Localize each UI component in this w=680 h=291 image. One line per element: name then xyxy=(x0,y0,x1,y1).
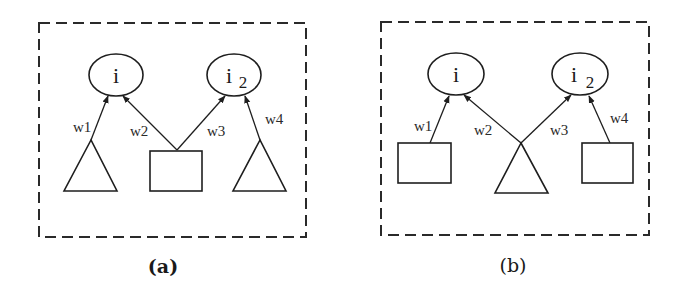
edge-w4-a xyxy=(245,96,260,140)
node-i-label: i xyxy=(453,62,459,87)
label-w4-b: w4 xyxy=(610,110,629,126)
caption-b: (b) xyxy=(500,254,527,276)
label-w3-a: w3 xyxy=(207,123,225,139)
triangle-right-a xyxy=(233,140,286,191)
label-w3-b: w3 xyxy=(550,122,568,138)
ellipse-node-i2 xyxy=(207,54,261,96)
node-i-b: i xyxy=(428,53,484,95)
diagram-canvas: i i 2 w1 w2 w3 w4 (a) i i xyxy=(0,0,680,291)
node-i2-subscript: 2 xyxy=(586,73,595,92)
label-w4-a: w4 xyxy=(265,111,284,127)
edge-w2-b xyxy=(464,95,521,143)
rectangle-middle-a xyxy=(150,151,202,191)
edge-w1-a xyxy=(91,96,108,140)
caption-a: (a) xyxy=(148,255,178,277)
node-i2-b: i 2 xyxy=(552,53,608,95)
label-w1-a: w1 xyxy=(73,119,91,135)
triangle-left-a xyxy=(64,140,117,191)
panel-a: i i 2 w1 w2 w3 w4 (a) xyxy=(39,23,306,277)
node-i-a: i xyxy=(89,54,143,96)
label-w1-b: w1 xyxy=(414,118,432,134)
node-i2-label: i xyxy=(226,63,232,88)
rectangle-left-b xyxy=(398,143,451,183)
node-i-label: i xyxy=(113,63,119,88)
edge-w1-b xyxy=(430,96,449,143)
triangle-middle-b xyxy=(495,143,548,193)
node-i2-a: i 2 xyxy=(207,54,261,96)
edge-w4-b xyxy=(589,96,610,143)
label-w2-a: w2 xyxy=(130,123,148,139)
label-w2-b: w2 xyxy=(474,122,492,138)
ellipse-node-i2 xyxy=(552,53,608,95)
node-i2-label: i xyxy=(571,62,577,87)
panel-b: i i 2 w1 w2 w3 w4 (b) xyxy=(381,22,649,276)
rectangle-right-b xyxy=(582,143,633,183)
node-i2-subscript: 2 xyxy=(239,73,248,92)
